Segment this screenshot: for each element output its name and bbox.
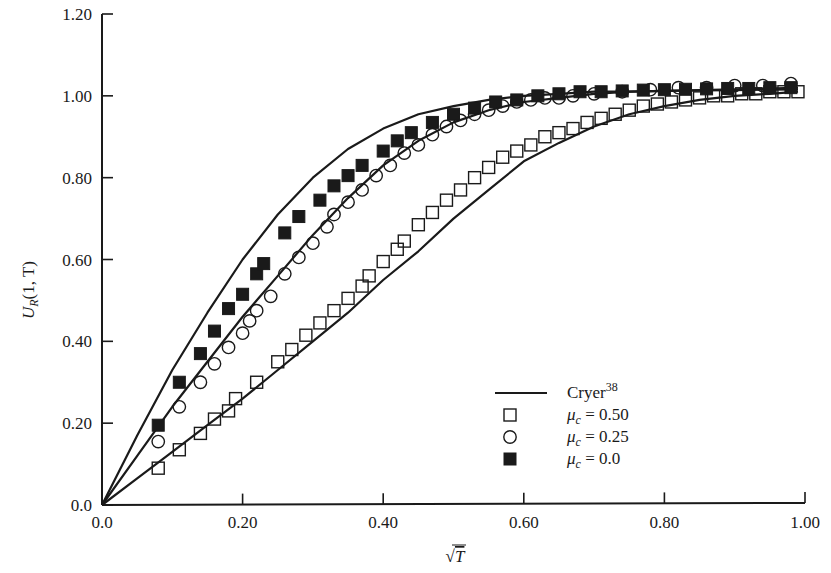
- open-square-marker: [412, 219, 424, 231]
- filled-square-marker: [194, 348, 206, 360]
- open-square-marker: [511, 145, 523, 157]
- open-circle-marker: [250, 304, 262, 316]
- filled-square-marker: [448, 108, 460, 120]
- filled-square-marker: [208, 325, 220, 337]
- filled-square-marker: [616, 85, 628, 97]
- open-square-marker: [314, 317, 326, 329]
- chart-canvas: 0.00.200.400.600.801.001.200.00.200.400.…: [0, 0, 831, 573]
- open-circle-marker: [265, 290, 277, 302]
- filled-square-marker: [722, 82, 734, 94]
- filled-square-marker: [223, 303, 235, 315]
- x-tick-label: 0.80: [650, 513, 680, 532]
- filled-square-marker: [701, 83, 713, 95]
- filled-square-marker: [658, 84, 670, 96]
- y-tick-label: 0.20: [62, 414, 92, 433]
- model-curves: [102, 88, 798, 505]
- open-square-marker: [567, 123, 579, 135]
- open-circle-marker: [307, 237, 319, 249]
- filled-square-marker: [679, 83, 691, 95]
- y-tick-label: 0.40: [62, 332, 92, 351]
- open-circle-marker: [152, 435, 164, 447]
- filled-square-marker: [504, 453, 516, 465]
- open-square-marker: [469, 172, 481, 184]
- filled-square-marker: [405, 127, 417, 139]
- filled-square-marker: [293, 211, 305, 223]
- legend-label-cryer: Cryer38: [567, 380, 618, 402]
- data-markers: [152, 77, 804, 474]
- filled-square-marker: [532, 90, 544, 102]
- filled-square-marker: [785, 82, 797, 94]
- filled-square-marker: [469, 102, 481, 114]
- filled-square-marker: [152, 419, 164, 431]
- cryer-curve: [102, 89, 798, 505]
- open-square-marker: [525, 139, 537, 151]
- open-square-marker: [440, 194, 452, 206]
- open-square-marker: [504, 409, 516, 421]
- open-circle-marker: [504, 431, 516, 443]
- filled-square-marker: [173, 376, 185, 388]
- filled-square-marker: [764, 82, 776, 94]
- open-square-marker: [391, 243, 403, 255]
- open-square-marker: [426, 206, 438, 218]
- filled-square-marker: [595, 86, 607, 98]
- x-tick-label: 0.60: [509, 513, 539, 532]
- legend-label-filled-square: μc = 0.0: [566, 449, 620, 471]
- filled-square-marker: [391, 135, 403, 147]
- open-circle-marker: [194, 376, 206, 388]
- open-square-marker: [377, 256, 389, 268]
- open-square-marker: [328, 305, 340, 317]
- x-tick-label: 1.00: [790, 513, 820, 532]
- filled-square-marker: [743, 82, 755, 94]
- open-square-marker: [398, 235, 410, 247]
- open-circle-marker: [222, 341, 234, 353]
- open-square-marker: [539, 131, 551, 143]
- x-tick-label: 0.40: [368, 513, 398, 532]
- open-circle-marker: [321, 221, 333, 233]
- legend-label-open-square: μc = 0.50: [566, 405, 629, 427]
- open-circle-marker: [208, 358, 220, 370]
- filled-square-marker: [258, 258, 270, 270]
- x-axis-title: √T: [446, 547, 466, 566]
- filled-square-marker: [314, 194, 326, 206]
- x-tick-label: 0.0: [91, 513, 112, 532]
- open-square-marker: [300, 329, 312, 341]
- open-square-marker: [497, 151, 509, 163]
- y-tick-label: 1.20: [62, 5, 92, 24]
- cryer-curve: [102, 92, 798, 505]
- open-square-marker: [483, 161, 495, 173]
- filled-square-marker: [328, 180, 340, 192]
- y-tick-label: 1.00: [62, 87, 92, 106]
- filled-square-marker: [237, 288, 249, 300]
- legend: Cryer38μc = 0.50μc = 0.25μc = 0.0: [495, 380, 629, 471]
- filled-square-marker: [574, 86, 586, 98]
- filled-square-marker: [426, 116, 438, 128]
- filled-square-marker: [279, 227, 291, 239]
- cryer-curve: [102, 88, 798, 505]
- x-tick-label: 0.20: [228, 513, 258, 532]
- filled-square-marker: [342, 170, 354, 182]
- filled-square-marker: [553, 88, 565, 100]
- x-axis-line: [102, 503, 805, 505]
- open-circle-marker: [328, 208, 340, 220]
- open-square-marker: [553, 127, 565, 139]
- y-tick-label: 0.80: [62, 169, 92, 188]
- y-tick-label: 0.60: [62, 251, 92, 270]
- legend-label-open-circle: μc = 0.25: [566, 427, 629, 449]
- y-tick-label: 0.0: [71, 496, 92, 515]
- filled-square-marker: [637, 84, 649, 96]
- y-axis-title: UR(1, T): [19, 261, 41, 319]
- open-square-marker: [455, 184, 467, 196]
- filled-square-marker: [490, 96, 502, 108]
- filled-square-marker: [511, 94, 523, 106]
- filled-square-marker: [356, 159, 368, 171]
- open-square-marker: [342, 292, 354, 304]
- open-square-marker: [152, 462, 164, 474]
- filled-square-marker: [377, 145, 389, 157]
- open-circle-marker: [173, 401, 185, 413]
- open-circle-marker: [236, 327, 248, 339]
